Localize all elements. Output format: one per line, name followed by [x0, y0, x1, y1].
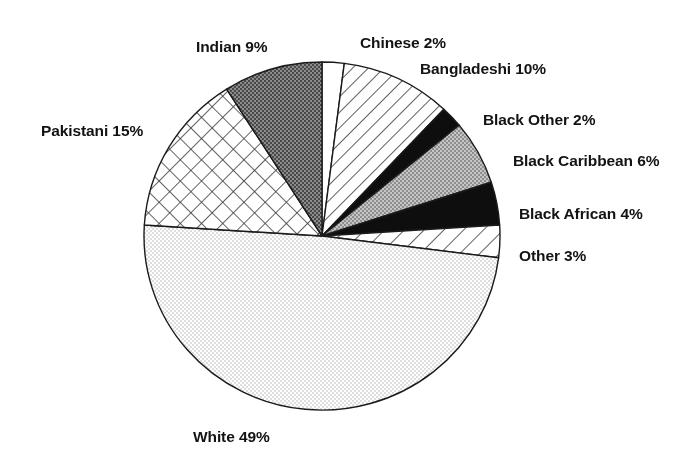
pie-slice-white [144, 225, 499, 410]
pie-chart: Indian 9% Chinese 2% Bangladeshi 10% Bla… [0, 0, 697, 469]
pie-slice-group [144, 62, 500, 410]
pie-label-bangladeshi: Bangladeshi 10% [420, 60, 546, 77]
pie-label-white: White 49% [193, 428, 270, 445]
pie-label-chinese: Chinese 2% [360, 34, 446, 51]
pie-label-pakistani: Pakistani 15% [41, 122, 143, 139]
pie-chart-graphic [0, 0, 697, 469]
pie-label-other: Other 3% [519, 247, 586, 264]
pie-label-black-african: Black African 4% [519, 205, 643, 222]
pie-label-indian: Indian 9% [196, 38, 267, 55]
pie-label-black-caribbean: Black Caribbean 6% [513, 152, 659, 169]
pie-label-black-other: Black Other 2% [483, 111, 595, 128]
